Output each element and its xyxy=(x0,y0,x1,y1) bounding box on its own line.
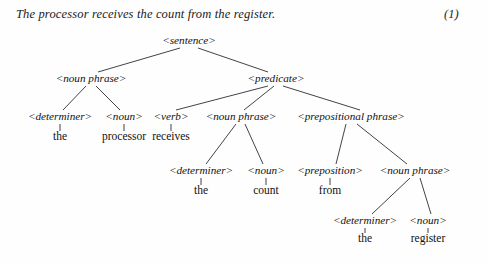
node-det_the_3: <determiner> xyxy=(333,214,397,226)
tree-edge xyxy=(357,124,407,164)
node-det_the_2: <determiner> xyxy=(169,164,233,176)
node-pp: <prepositional phrase> xyxy=(297,110,405,122)
terminal-the_3: the xyxy=(358,232,372,244)
tree-edge xyxy=(245,124,263,164)
tree-edge xyxy=(176,86,268,110)
node-det_the_1: <determiner> xyxy=(28,110,92,122)
node-np_prep_object: <noun phrase> xyxy=(380,164,451,176)
node-prep_from: <preposition> xyxy=(297,164,363,176)
tree-edge xyxy=(244,86,274,110)
node-verb_receives: <verb> xyxy=(154,110,189,122)
tree-edge xyxy=(198,48,268,72)
tree-edge xyxy=(206,124,236,164)
parse-tree-svg: <sentence><noun phrase><predicate><deter… xyxy=(0,0,489,263)
node-predicate: <predicate> xyxy=(248,72,305,84)
node-noun_register: <noun> xyxy=(409,214,446,226)
terminal-from: from xyxy=(319,184,341,196)
tree-edge xyxy=(420,178,431,214)
tree-node-labels: <sentence><noun phrase><predicate><deter… xyxy=(28,34,450,226)
terminal-register: register xyxy=(411,232,446,245)
tree-edge xyxy=(98,48,180,72)
node-sentence: <sentence> xyxy=(162,34,216,46)
node-noun_count: <noun> xyxy=(247,164,284,176)
node-np_object: <noun phrase> xyxy=(206,110,277,122)
node-np_subject: <noun phrase> xyxy=(56,72,127,84)
terminal-receives: receives xyxy=(152,130,190,142)
tree-edge xyxy=(63,86,86,110)
tree-edge xyxy=(283,86,360,110)
tree-edge xyxy=(336,124,346,164)
terminal-the_1: the xyxy=(53,130,67,142)
terminal-processor: processor xyxy=(102,130,146,143)
tree-edge xyxy=(96,86,120,110)
syntax-tree-figure: The processor receives the count from th… xyxy=(0,0,489,263)
terminal-the_2: the xyxy=(194,184,208,196)
terminal-count: count xyxy=(253,184,279,196)
tree-edge xyxy=(372,178,410,214)
node-noun_processor: <noun> xyxy=(105,110,142,122)
